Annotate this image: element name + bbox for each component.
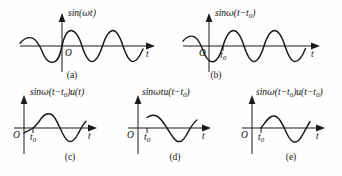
- y-axis-arrow: [135, 95, 142, 104]
- panel-d-caption: (d): [163, 152, 187, 162]
- panel-b-origin-label: O: [199, 48, 206, 58]
- panel-c-t0-label: t0: [30, 132, 36, 144]
- panel-e-origin-label: O: [241, 130, 248, 140]
- panel-c-x-axis-label: t: [88, 131, 91, 141]
- panel-e-t0-label: t0: [258, 132, 264, 144]
- panel-d-signal-label: sinωtu(t−t0): [142, 86, 190, 99]
- panel-d: sinωtu(t−t0) O t0 t: [114, 88, 228, 176]
- y-axis-arrow: [249, 95, 256, 104]
- panel-c-caption: (c): [58, 152, 82, 162]
- panel-e: sinω(t−t0)u(t−t0) O t0 t: [228, 88, 342, 176]
- panel-a-origin-label: O: [65, 48, 72, 58]
- panel-b-plot: [171, 0, 342, 88]
- panel-a-caption: (a): [60, 70, 84, 80]
- panel-c-origin-label: O: [13, 130, 20, 140]
- figure-container: sin(ωt) O t (a) sinω(t−t0) O t0 t (b): [0, 0, 342, 176]
- panel-e-signal-label: sinω(t−t0)u(t−t0): [256, 86, 323, 99]
- y-axis-arrow: [21, 95, 28, 104]
- panel-c-signal-label: sinω(t−t0)u(t): [30, 86, 84, 99]
- panel-b-x-axis-label: t: [311, 49, 314, 59]
- panel-b-caption: (b): [204, 70, 228, 80]
- panel-a: sin(ωt) O t: [0, 0, 171, 88]
- y-axis-arrow: [206, 13, 213, 22]
- y-axis-arrow: [59, 13, 66, 22]
- panel-d-t0-label: t0: [144, 132, 150, 144]
- panel-d-x-axis-label: t: [202, 131, 205, 141]
- panel-b-t0-label: t0: [220, 50, 226, 62]
- panel-b-signal-label: sinω(t−t0): [215, 7, 255, 20]
- panel-e-caption: (e): [279, 152, 303, 162]
- panel-a-signal-label: sin(ωt): [68, 7, 96, 18]
- panel-a-x-axis-label: t: [146, 49, 149, 59]
- waveform-gated-shifted-aligned: [261, 116, 310, 142]
- panel-e-x-axis-label: t: [316, 131, 319, 141]
- panel-b: sinω(t−t0) O t0 t: [171, 0, 342, 88]
- panel-c: sinω(t−t0)u(t) O t0 t: [0, 88, 114, 176]
- panel-d-origin-label: O: [127, 130, 134, 140]
